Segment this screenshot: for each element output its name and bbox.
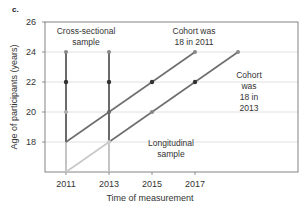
series-cohort-2011: [66, 52, 195, 142]
annotation-cohort-2013: 18 in: [240, 92, 259, 102]
x-tick: 2015: [142, 179, 162, 189]
y-tick: 18: [26, 137, 36, 147]
y-axis: 26 24 22 20 18: [26, 17, 36, 147]
data-points: [64, 50, 240, 144]
x-axis-label: Time of measurement: [106, 193, 194, 203]
y-tick: 26: [26, 17, 36, 27]
grid: [45, 52, 298, 142]
y-tick: 24: [26, 47, 36, 57]
y-tick: 22: [26, 77, 36, 87]
annotation-cohort-2011: 18 in 2011: [174, 37, 213, 47]
chart: c. 26 24 22 20 18 Age of participants (y…: [0, 0, 306, 208]
y-tick: 20: [26, 107, 36, 117]
annotation-cohort-2013: 2013: [240, 103, 259, 113]
annotation-cohort-2013: Cohort: [236, 70, 262, 80]
x-axis: 2011 2013 2015 2017: [56, 179, 205, 189]
panel-label: c.: [12, 5, 19, 14]
x-tick: 2011: [56, 179, 75, 189]
x-tick: 2017: [185, 179, 205, 189]
annotation-cross-sectional: sample: [72, 37, 100, 47]
annotation-cross-sectional: Cross-sectional: [57, 26, 116, 36]
y-axis-label: Age of participants (years): [9, 44, 19, 149]
annotation-cohort-2013: was: [240, 81, 256, 91]
x-tick: 2013: [99, 179, 119, 189]
annotation-cohort-2011: Cohort was: [173, 26, 216, 36]
annotation-longitudinal: Longitudinal: [148, 138, 194, 148]
annotations: Cross-sectional sample Cohort was 18 in …: [57, 26, 263, 159]
annotation-longitudinal: sample: [157, 149, 185, 159]
